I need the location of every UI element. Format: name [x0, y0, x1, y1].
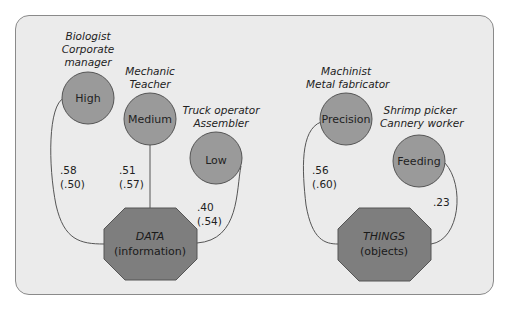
occupations-low: Truck operator Assembler — [178, 104, 264, 130]
coefficient-low: .40 (.54) — [197, 200, 222, 228]
occupations-precision: Machinist Metal fabricator — [306, 65, 386, 91]
occupations-medium: Mechanic Teacher — [118, 65, 182, 91]
hub-things-label: THINGS (objects) — [360, 229, 408, 259]
level-label-low: Low — [205, 154, 227, 167]
level-label-high: High — [75, 92, 100, 105]
level-label-feeding: Feeding — [397, 155, 440, 168]
occupations-feeding: Shrimp picker Cannery worker — [380, 104, 460, 130]
coefficient-precision: .56 (.60) — [312, 163, 337, 191]
level-label-precision: Precision — [321, 113, 370, 126]
level-label-medium: Medium — [128, 113, 172, 126]
hub-data-title: DATA — [114, 229, 186, 244]
hub-data-label: DATA (information) — [114, 229, 186, 259]
coefficient-medium: .51 (.57) — [119, 163, 144, 191]
hub-data-subtitle: (information) — [114, 244, 186, 259]
hub-things-subtitle: (objects) — [360, 244, 408, 259]
coefficient-high: .58 (.50) — [60, 163, 85, 191]
occupations-high: Biologist Corporate manager — [58, 30, 118, 69]
coefficient-feeding: .23 — [433, 195, 450, 209]
hub-things-title: THINGS — [360, 229, 408, 244]
